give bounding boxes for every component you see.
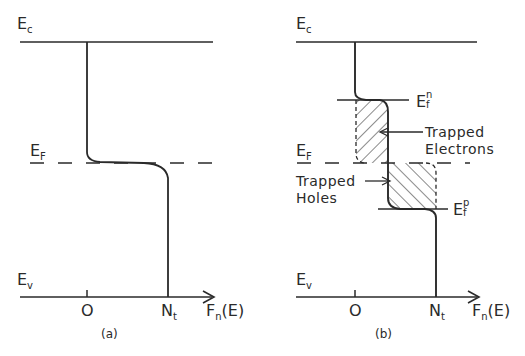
panel-a (20, 42, 214, 303)
fn-symbol: F (472, 301, 481, 320)
ef-subscript: F (306, 151, 312, 162)
fn-symbol: F (206, 301, 215, 320)
label-quasi-fermi-n: Enf (416, 92, 432, 112)
nt-symbol: N (161, 301, 173, 320)
fn-argument: (E) (222, 301, 245, 320)
label-ef-b: EF (296, 143, 312, 162)
x-axis-label-a: Fn(E) (206, 303, 244, 322)
ec-subscript: c (306, 24, 312, 35)
ec-symbol: E (17, 14, 27, 33)
efn-subscript: f (426, 100, 432, 110)
trapped-holes-text-1: Trapped (296, 173, 356, 190)
label-ef-a: EF (30, 143, 46, 162)
ev-subscript: v (306, 280, 312, 291)
figure-drawing (0, 0, 525, 356)
ef-symbol: E (30, 141, 40, 160)
x-axis-label-b: Fn(E) (472, 303, 510, 322)
trapped-electrons-text-1: Trapped (425, 124, 494, 141)
tick-label-nt-b: Nt (429, 303, 445, 322)
ef-symbol: E (296, 141, 306, 160)
nt-symbol: N (429, 301, 441, 320)
fn-argument: (E) (488, 301, 511, 320)
annotation-trapped-electrons: Trapped Electrons (425, 124, 494, 158)
occupancy-curve-a (87, 42, 168, 297)
trapped-holes-text-2: Holes (296, 190, 356, 207)
ef-subscript: F (40, 151, 46, 162)
label-ec-a: Ec (17, 16, 33, 35)
efn-symbol: E (416, 92, 426, 111)
tick-label-zero-a: O (81, 303, 94, 319)
nt-subscript: t (441, 311, 445, 322)
ev-symbol: E (17, 270, 27, 289)
trap-occupancy-figure: Ec EF Ev O Nt Fn(E) (a) Ec EF Ev Enf Epf… (0, 0, 525, 356)
annotation-trapped-holes: Trapped Holes (296, 173, 356, 207)
panel-caption-b: (b) (375, 328, 392, 340)
trapped-electrons-text-2: Electrons (425, 141, 494, 158)
ev-subscript: v (27, 280, 33, 291)
tick-label-zero-b: O (349, 303, 362, 319)
ec-symbol: E (296, 14, 306, 33)
tick-label-nt-a: Nt (161, 303, 177, 322)
trapped-holes-region (388, 163, 436, 209)
label-ev-a: Ev (17, 272, 33, 291)
ec-subscript: c (27, 24, 33, 35)
nt-subscript: t (173, 311, 177, 322)
efp-symbol: E (453, 200, 463, 219)
label-ec-b: Ec (296, 16, 312, 35)
ev-symbol: E (296, 270, 306, 289)
efp-subscript: f (463, 208, 469, 218)
label-quasi-fermi-p: Epf (453, 200, 469, 220)
panel-caption-a: (a) (101, 328, 118, 340)
label-ev-b: Ev (296, 272, 312, 291)
